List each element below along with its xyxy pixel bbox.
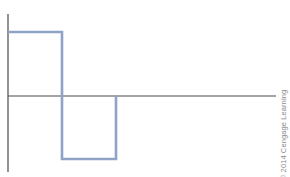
diagram-canvas [0, 0, 290, 177]
copyright-credit: © 2014 Cengage Learning [279, 90, 288, 177]
